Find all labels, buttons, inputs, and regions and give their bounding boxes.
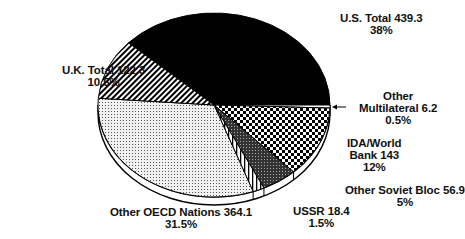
slice-percent: 10.5% bbox=[62, 76, 145, 88]
slice-label-text: U.S. Total 439.3 bbox=[340, 12, 423, 24]
slice-percent: 38% bbox=[340, 24, 423, 36]
slice-percent: 5% bbox=[345, 196, 465, 208]
slice-label-other-oecd-nations: Other OECD Nations 364.131.5% bbox=[110, 206, 252, 230]
slice-label-text: Bank 143 bbox=[347, 149, 401, 161]
slice-percent: 31.5% bbox=[110, 218, 252, 230]
slice-label-ida-world-bank: IDA/WorldBank 14312% bbox=[347, 137, 401, 173]
slice-label-text: Other OECD Nations 364.1 bbox=[110, 206, 252, 218]
slice-label-text: Other bbox=[359, 90, 437, 102]
slice-label-other-multilateral: OtherMultilateral 6.20.5% bbox=[359, 90, 437, 126]
slice-percent: 12% bbox=[347, 161, 401, 173]
slice-label-text: U.K. Total 122.3 bbox=[62, 64, 145, 76]
slice-label-text: Other Soviet Bloc 56.9 bbox=[345, 184, 465, 196]
slice-label-text: Multilateral 6.2 bbox=[359, 102, 437, 114]
slice-label-u-s-total: U.S. Total 439.338% bbox=[340, 12, 423, 36]
callout-arrow bbox=[332, 105, 346, 110]
slice-label-text: USSR 18.4 bbox=[293, 205, 350, 217]
slice-label-u-k-total: U.K. Total 122.310.5% bbox=[62, 64, 145, 88]
slice-label-ussr: USSR 18.41.5% bbox=[293, 205, 350, 229]
slice-percent: 0.5% bbox=[359, 114, 437, 126]
slice-label-text: IDA/World bbox=[347, 137, 401, 149]
slice-percent: 1.5% bbox=[293, 217, 350, 229]
slice-label-other-soviet-bloc: Other Soviet Bloc 56.95% bbox=[345, 184, 465, 208]
